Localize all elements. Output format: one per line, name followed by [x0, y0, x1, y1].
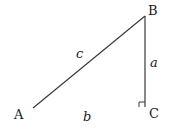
side-label-b: b: [83, 109, 91, 124]
triangle-diagram: A B C c a b: [0, 0, 169, 130]
vertex-label-a: A: [13, 107, 24, 122]
side-label-a: a: [150, 55, 158, 70]
vertex-label-b: B: [148, 3, 158, 18]
side-c-line: [33, 16, 145, 108]
right-angle-marker: [139, 102, 145, 107]
side-label-c: c: [76, 46, 84, 61]
vertex-label-c: C: [149, 106, 159, 121]
